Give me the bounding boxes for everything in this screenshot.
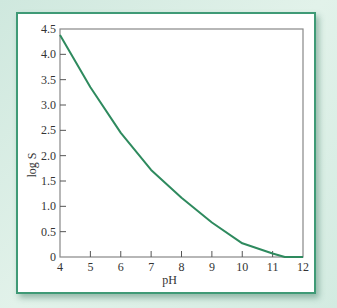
plot-frame [60,29,303,257]
x-tick-label: 12 [297,260,309,274]
y-tick-label: 0.5 [41,225,56,239]
chart-svg: 00.51.01.52.02.53.03.54.04.5456789101112… [0,0,337,308]
x-tick-label: 11 [267,260,279,274]
y-tick-label: 4.0 [41,47,56,61]
y-tick-label: 3.0 [41,98,56,112]
x-tick-label: 6 [118,260,124,274]
y-tick-label: 3.5 [41,73,56,87]
y-tick-label: 1.5 [41,174,56,188]
x-tick-label: 8 [179,260,185,274]
plot-area: 00.51.01.52.02.53.03.54.04.5456789101112… [25,22,309,287]
y-tick-label: 1.0 [41,199,56,213]
y-tick-label: 0 [50,250,56,264]
x-tick-label: 5 [87,260,93,274]
data-line [60,35,303,257]
y-tick-label: 2.0 [41,149,56,163]
y-tick-label: 4.5 [41,22,56,36]
x-tick-label: 4 [57,260,63,274]
x-axis-title: pH [162,273,177,287]
y-tick-label: 2.5 [41,123,56,137]
x-tick-label: 7 [148,260,154,274]
x-tick-label: 10 [236,260,248,274]
y-axis-title: log S [25,152,39,177]
x-tick-label: 9 [209,260,215,274]
